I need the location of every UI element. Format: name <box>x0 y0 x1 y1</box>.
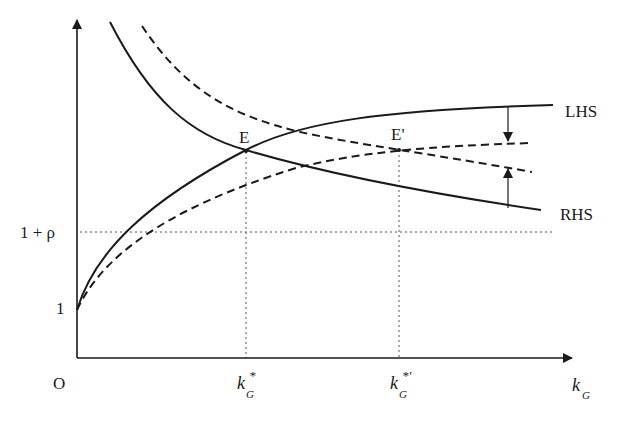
diagram-canvas: E E' LHS RHS 1 + ρ 1 O k * G k *' G k G <box>0 0 625 437</box>
k-star-label: k <box>237 373 246 393</box>
point-e-label: E <box>239 128 249 147</box>
origin-label: O <box>53 374 65 393</box>
lhs-label: LHS <box>565 102 597 121</box>
rhs-label: RHS <box>560 205 593 224</box>
y-tick-one: 1 <box>56 299 65 318</box>
point-e-dot <box>244 149 248 153</box>
rhs-shifted-curve <box>142 26 532 172</box>
x-axis-label-sub: G <box>582 389 590 401</box>
x-axis-label: k <box>572 375 581 395</box>
k-star-prime-sup: *' <box>402 368 412 383</box>
k-star-sub: G <box>246 388 254 400</box>
lhs-shifted-curve <box>77 143 532 310</box>
k-star-prime-sub: G <box>399 388 407 400</box>
point-e-prime-dot <box>397 148 401 152</box>
point-e-prime-label: E' <box>391 125 404 144</box>
k-star-prime-label: k <box>390 373 399 393</box>
k-star-sup: * <box>249 368 256 383</box>
rhs-curve <box>110 22 541 210</box>
y-tick-rho: 1 + ρ <box>20 223 55 242</box>
